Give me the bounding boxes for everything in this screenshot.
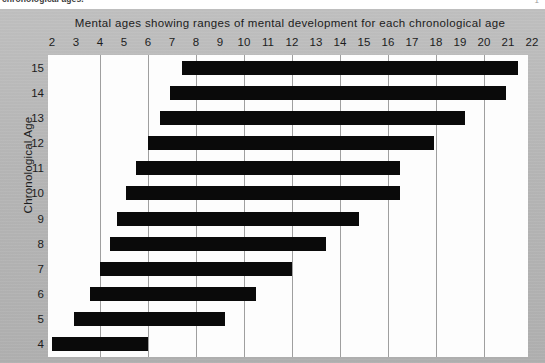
- bar-age-11: [136, 161, 400, 175]
- y-tick-label-6: 6: [14, 287, 44, 301]
- y-tick-label-10: 10: [14, 186, 44, 200]
- y-tick-label-8: 8: [14, 237, 44, 251]
- bar-age-7: [100, 262, 292, 276]
- page-mark: 1: [535, 0, 539, 5]
- bar-age-5: [74, 312, 225, 326]
- x-tick-label-21: 21: [495, 36, 521, 48]
- y-tick-label-5: 5: [14, 312, 44, 326]
- x-tick-label-14: 14: [327, 36, 353, 48]
- x-tick-label-12: 12: [279, 36, 305, 48]
- caption-text: chronological ages.: [2, 0, 84, 4]
- y-tick-label-14: 14: [14, 86, 44, 100]
- x-tick-label-19: 19: [447, 36, 473, 48]
- bar-age-14: [170, 86, 506, 100]
- x-axis-tick-labels: 2345678910111213141516171819202122: [0, 36, 545, 52]
- plot-area: [48, 55, 528, 357]
- x-tick-label-8: 8: [183, 36, 209, 48]
- bar-age-13: [160, 111, 465, 125]
- x-tick-label-10: 10: [231, 36, 257, 48]
- y-tick-label-7: 7: [14, 262, 44, 276]
- x-tick-label-13: 13: [303, 36, 329, 48]
- x-tick-label-20: 20: [471, 36, 497, 48]
- x-tick-label-3: 3: [63, 36, 89, 48]
- bar-age-12: [148, 136, 434, 150]
- x-tick-label-9: 9: [207, 36, 233, 48]
- bar-age-10: [126, 186, 400, 200]
- x-tick-label-22: 22: [519, 36, 545, 48]
- bar-age-15: [182, 61, 518, 75]
- figure-panel: Mental ages showing ranges of mental dev…: [0, 9, 545, 363]
- x-tick-label-7: 7: [159, 36, 185, 48]
- x-tick-label-5: 5: [111, 36, 137, 48]
- cropped-caption-line: chronological ages. 1: [0, 0, 545, 9]
- bar-age-9: [117, 212, 359, 226]
- chart-title: Mental ages showing ranges of mental dev…: [48, 17, 532, 29]
- x-tick-label-6: 6: [135, 36, 161, 48]
- x-tick-label-18: 18: [423, 36, 449, 48]
- y-axis-tick-labels: 151413121110987654: [14, 55, 44, 357]
- y-tick-label-13: 13: [14, 111, 44, 125]
- bar-series: [48, 55, 528, 357]
- y-tick-label-11: 11: [14, 161, 44, 175]
- x-tick-label-15: 15: [351, 36, 377, 48]
- x-tick-label-4: 4: [87, 36, 113, 48]
- x-tick-label-16: 16: [375, 36, 401, 48]
- y-tick-label-4: 4: [14, 337, 44, 351]
- bar-age-6: [90, 287, 256, 301]
- y-tick-label-9: 9: [14, 212, 44, 226]
- x-tick-label-17: 17: [399, 36, 425, 48]
- y-tick-label-15: 15: [14, 61, 44, 75]
- x-tick-label-11: 11: [255, 36, 281, 48]
- y-tick-label-12: 12: [14, 136, 44, 150]
- bar-age-8: [110, 237, 326, 251]
- bar-age-4: [52, 337, 148, 351]
- x-tick-label-2: 2: [39, 36, 65, 48]
